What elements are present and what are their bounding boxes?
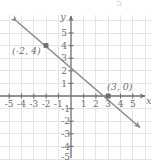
y-tick-label: -2 bbox=[61, 116, 70, 126]
x-tick-label: 2 bbox=[93, 99, 99, 109]
point-label-3-0: (3, 0) bbox=[107, 81, 133, 92]
y-tick-label: 3 bbox=[61, 53, 67, 63]
point-marker-neg2-4 bbox=[44, 43, 49, 48]
x-tick-label: 4 bbox=[118, 99, 124, 109]
x-tick-label: -5 bbox=[5, 99, 14, 109]
y-tick-label: 4 bbox=[61, 41, 67, 51]
y-tick-label: -1 bbox=[61, 104, 70, 114]
y-tick-labels: 5 4 3 2 1 -1 -2 -3 -4 -5 bbox=[61, 28, 70, 160]
point-marker-3-0 bbox=[106, 94, 111, 99]
x-tick-label: -4 bbox=[17, 99, 26, 109]
x-tick-label: -2 bbox=[42, 99, 51, 109]
y-tick-label: 5 bbox=[61, 28, 67, 38]
x-tick-label: -3 bbox=[29, 99, 38, 109]
plotted-line-group bbox=[17, 22, 140, 128]
graph-canvas: -5 -4 -3 -2 -1 1 2 3 4 5 5 4 3 2 1 -1 -2… bbox=[0, 0, 152, 160]
coordinate-plane-figure: -5 -4 -3 -2 -1 1 2 3 4 5 5 4 3 2 1 -1 -2… bbox=[0, 0, 152, 160]
x-tick-label: 1 bbox=[81, 99, 87, 109]
y-tick-label: -4 bbox=[61, 142, 70, 152]
stray-glyph-artifact: 5 bbox=[116, 0, 122, 8]
x-axis-label: x bbox=[146, 95, 152, 106]
point-label-neg2-4: (-2, 4) bbox=[12, 45, 41, 56]
y-tick-label: 1 bbox=[61, 79, 67, 89]
x-tick-label: 3 bbox=[105, 99, 111, 109]
y-tick-label: 2 bbox=[61, 66, 67, 76]
y-axis-label: y bbox=[59, 11, 66, 22]
plotted-line bbox=[17, 22, 140, 128]
y-tick-label: -3 bbox=[61, 129, 70, 139]
x-tick-label: 5 bbox=[130, 99, 136, 109]
y-tick-label: -5 bbox=[61, 152, 70, 161]
